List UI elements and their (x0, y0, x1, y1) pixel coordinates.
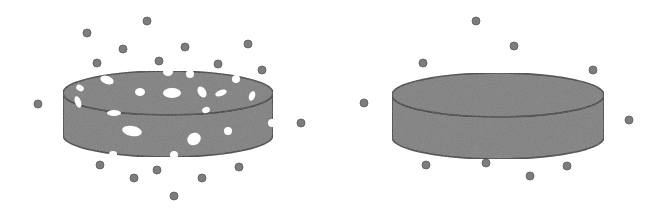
particle (482, 159, 490, 167)
particle (472, 17, 480, 25)
disc-top (392, 73, 604, 117)
pore-hole (268, 119, 276, 127)
particle (181, 43, 189, 51)
pore-hole (186, 70, 194, 78)
particle (96, 161, 104, 169)
pore-hole (109, 151, 117, 157)
particles-right-back (482, 159, 490, 167)
particle (589, 66, 597, 74)
pore-hole (170, 151, 178, 159)
particle (625, 116, 633, 124)
particle (93, 59, 101, 67)
particle (422, 161, 430, 169)
particle (130, 174, 138, 182)
particle (119, 45, 127, 53)
particle (360, 99, 368, 107)
particle (258, 66, 266, 74)
pore-hole (163, 88, 181, 98)
pore-hole (232, 75, 240, 83)
particle (34, 100, 42, 108)
figure-canvas (0, 0, 664, 211)
pore-hole (135, 88, 145, 96)
particle (563, 162, 571, 170)
particle (297, 119, 305, 127)
particle (198, 174, 206, 182)
particle (419, 59, 427, 67)
particle (510, 42, 518, 50)
pore-hole (224, 127, 232, 135)
particle (526, 172, 534, 180)
particle (214, 60, 222, 68)
pore-hole (163, 68, 173, 76)
particle (170, 192, 178, 200)
particle (235, 163, 243, 171)
solid-disc (392, 73, 604, 159)
porous-disc (63, 68, 276, 159)
pore-hole (107, 110, 121, 116)
particle (143, 17, 151, 25)
particle (153, 166, 161, 174)
particle (155, 57, 163, 65)
particle (83, 29, 91, 37)
particle (244, 40, 252, 48)
